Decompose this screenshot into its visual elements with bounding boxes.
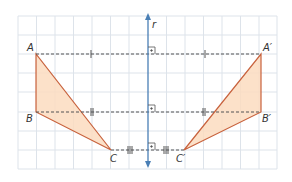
label-b: B xyxy=(26,113,33,124)
arrow-down-icon xyxy=(145,161,151,168)
label-b-prime: B′ xyxy=(262,113,272,124)
axis-label-r: r xyxy=(152,19,157,30)
label-a: A xyxy=(26,42,34,53)
axis-r xyxy=(145,13,151,168)
right-angle-markers xyxy=(148,47,155,150)
reflection-diagram: r A B C A′ B′ C′ xyxy=(0,0,292,182)
label-c: C xyxy=(110,153,117,164)
label-a-prime: A′ xyxy=(262,42,273,53)
label-c-prime: C′ xyxy=(176,153,186,164)
